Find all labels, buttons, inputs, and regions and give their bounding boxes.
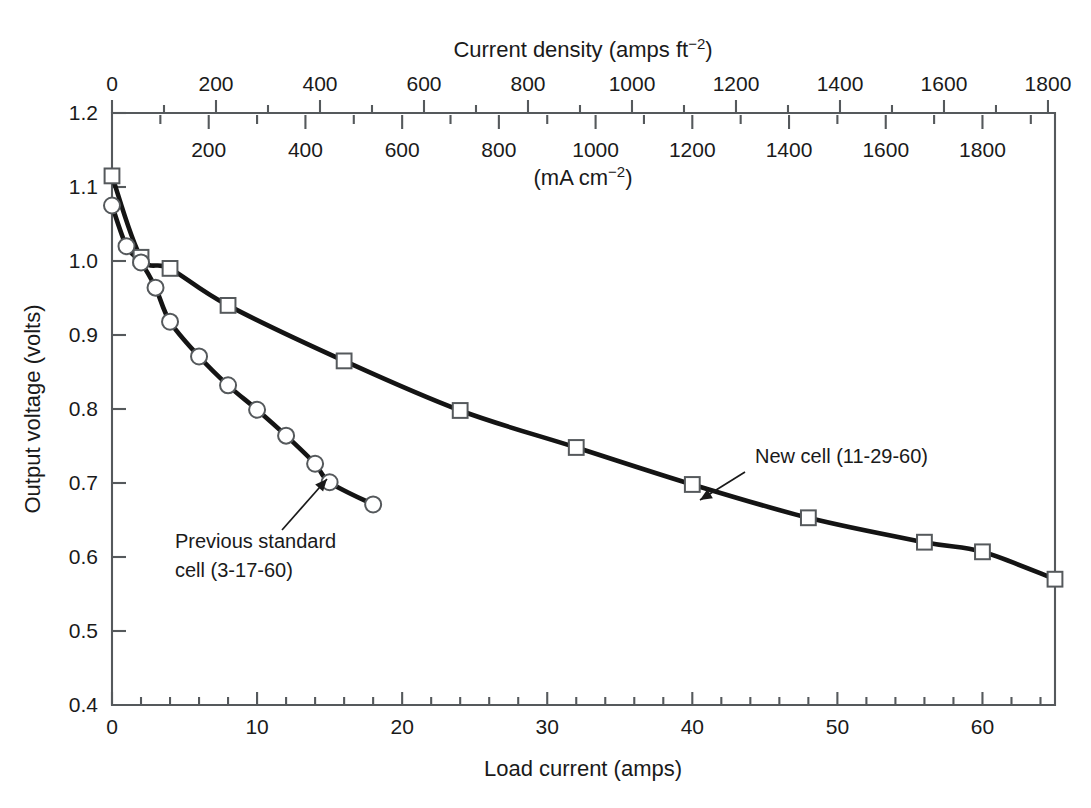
- top-secondary-tick-label: 600: [385, 138, 420, 161]
- bottom-axis-tick-label: 10: [245, 715, 268, 738]
- top-axis-tick-label: 1200: [713, 72, 760, 95]
- left-axis-tick-label: 0.6: [69, 545, 98, 568]
- bottom-axis-title: Load current (amps): [484, 756, 682, 781]
- top-axis-tick-label: 400: [302, 72, 337, 95]
- left-axis-tick-label: 1.0: [69, 249, 98, 272]
- data-point-marker-square: [337, 354, 352, 369]
- top-secondary-tick-label: 1800: [959, 138, 1006, 161]
- top-axis-minor-ticks: [164, 105, 996, 113]
- figure-canvas: Current density (amps ft−2) (mA cm−2) Lo…: [0, 0, 1091, 808]
- data-point-marker-square: [917, 535, 932, 550]
- top-secondary-major-ticks: [209, 115, 983, 129]
- bottom-axis-tick-label: 40: [681, 715, 704, 738]
- data-point-marker-circle: [191, 348, 207, 364]
- bottom-axis-tick-label: 20: [390, 715, 413, 738]
- bottom-axis-minor-ticks: [141, 697, 1040, 705]
- left-axis-tick-labels: 0.40.50.60.70.80.91.01.11.2: [69, 101, 99, 716]
- top-secondary-axis-title: (mA cm−2): [534, 163, 633, 190]
- top-secondary-tick-label: 1400: [766, 138, 813, 161]
- data-point-marker-square: [685, 477, 700, 492]
- top-axis-tick-label: 1800: [1025, 72, 1072, 95]
- data-point-marker-square: [105, 169, 120, 184]
- left-axis-tick-label: 0.9: [69, 323, 98, 346]
- bottom-axis-tick-label: 60: [971, 715, 994, 738]
- left-axis-tick-label: 1.2: [69, 101, 98, 124]
- top-axis-tick-label: 600: [406, 72, 441, 95]
- annotation-previous-cell-leader: [282, 479, 327, 530]
- top-axis-title-sup: −2: [688, 35, 705, 52]
- left-axis-tick-label: 0.5: [69, 619, 98, 642]
- annotation-previous-cell-label-line2: cell (3-17-60): [175, 559, 293, 581]
- top-secondary-title-main: (mA cm: [534, 165, 609, 190]
- data-point-marker-square: [569, 440, 584, 455]
- top-axis-tick-label: 0: [106, 72, 118, 95]
- data-point-marker-square: [1048, 572, 1063, 587]
- top-secondary-tick-label: 1000: [572, 138, 619, 161]
- top-axis-tick-label: 200: [198, 72, 233, 95]
- annotation-previous-cell-label-line1: Previous standard: [175, 530, 336, 552]
- bottom-axis-tick-label: 0: [106, 715, 118, 738]
- bottom-axis-tick-labels: 0102030405060: [106, 715, 994, 738]
- left-axis-title: Output voltage (volts): [20, 304, 45, 513]
- top-axis-tick-label: 1600: [921, 72, 968, 95]
- top-secondary-title-tail: ): [625, 165, 632, 190]
- annotation-new-cell-label: New cell (11-29-60): [755, 445, 928, 467]
- data-point-marker-circle: [148, 280, 164, 296]
- top-axis-tick-label: 800: [510, 72, 545, 95]
- left-axis-tick-label: 0.4: [69, 693, 99, 716]
- data-point-marker-circle: [220, 377, 236, 393]
- top-axis-title: Current density (amps ft−2): [453, 35, 712, 62]
- series-curve-new-cell: [112, 176, 1055, 579]
- left-axis-tick-label: 0.7: [69, 471, 98, 494]
- data-point-marker-square: [453, 403, 468, 418]
- data-point-marker-circle: [249, 402, 265, 418]
- top-axis-title-main: Current density (amps ft: [453, 37, 688, 62]
- left-axis-tick-label: 1.1: [69, 175, 98, 198]
- left-axis-tick-label: 0.8: [69, 397, 98, 420]
- data-point-marker-circle: [119, 238, 135, 254]
- top-secondary-tick-label: 1200: [669, 138, 716, 161]
- data-point-marker-square: [801, 510, 816, 525]
- data-point-marker-square: [221, 298, 236, 313]
- top-axis-tick-labels: 020040060080010001200140016001800: [106, 72, 1071, 95]
- data-point-marker-circle: [162, 314, 178, 330]
- data-point-marker-square: [975, 544, 990, 559]
- top-secondary-tick-label: 1600: [862, 138, 909, 161]
- data-point-marker-circle: [133, 254, 149, 270]
- bottom-axis-tick-label: 50: [826, 715, 849, 738]
- data-point-marker-circle: [307, 456, 323, 472]
- series-curves: [112, 176, 1055, 579]
- top-secondary-tick-labels: 20040060080010001200140016001800: [191, 138, 1006, 161]
- top-axis-title-tail: ): [705, 37, 712, 62]
- top-secondary-tick-label: 800: [481, 138, 516, 161]
- data-point-marker-square: [163, 261, 178, 276]
- top-axis-tick-label: 1000: [609, 72, 656, 95]
- bottom-axis-major-ticks: [112, 692, 982, 705]
- chart-svg: Current density (amps ft−2) (mA cm−2) Lo…: [0, 0, 1091, 808]
- top-secondary-title-sup: −2: [608, 163, 625, 180]
- top-secondary-tick-label: 400: [288, 138, 323, 161]
- top-axis-tick-label: 1400: [817, 72, 864, 95]
- data-point-marker-circle: [365, 496, 381, 512]
- data-point-marker-circle: [278, 428, 294, 444]
- data-point-marker-circle: [104, 198, 120, 214]
- bottom-axis-tick-label: 30: [536, 715, 559, 738]
- series-markers: [104, 169, 1062, 587]
- top-secondary-tick-label: 200: [191, 138, 226, 161]
